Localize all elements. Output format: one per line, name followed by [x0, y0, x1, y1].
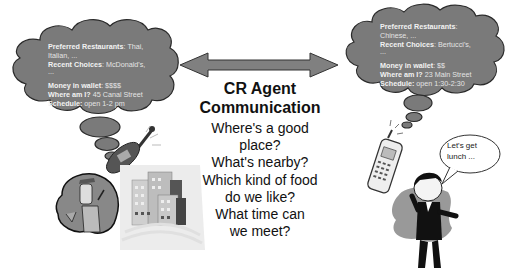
question-line: Which kind of food: [182, 172, 338, 189]
right-preferred-label: Preferred Restaurants: [380, 22, 456, 31]
speech-line-1: Let's get: [447, 140, 507, 151]
right-schedule-value: open 1:30-2:30: [414, 79, 464, 88]
left-schedule-label: Schedule:: [48, 99, 82, 108]
question-line: Where's a good: [182, 120, 338, 137]
right-schedule-label: Schedule:: [380, 79, 414, 88]
bidirectional-arrow: [180, 53, 338, 77]
speech-bubble-text: Let's get lunch ...: [447, 140, 507, 162]
left-recent-label: Recent Choices: [48, 60, 102, 69]
left-recent-value: : McDonald's,: [102, 60, 145, 69]
question-line: What time can: [182, 206, 338, 223]
right-preferred-value-cont: Chinese, ...: [380, 31, 472, 40]
diagram-title: CR Agent Communication: [190, 79, 330, 117]
right-money-label: Money in wallet: [380, 61, 433, 70]
right-thought-text: Preferred Restaurants: Chinese, ... Rece…: [380, 22, 472, 88]
question-list: Where's a good place? What's nearby? Whi…: [182, 120, 338, 240]
right-recent-label: Recent Choices: [380, 40, 434, 49]
right-money-value: : $$: [433, 61, 445, 70]
speech-line-2: lunch ...: [447, 151, 507, 162]
title-line-1: CR Agent: [190, 79, 330, 98]
right-where-label: Where am I?: [380, 70, 423, 79]
left-where-label: Where am I?: [48, 90, 91, 99]
left-where-value: 45 Canal Street: [91, 90, 143, 99]
right-where-value: 23 Main Street: [423, 70, 472, 79]
question-line: place?: [182, 137, 338, 154]
left-preferred-label: Preferred Restaurants: [48, 42, 124, 51]
left-preferred-value: : Thai,: [124, 42, 144, 51]
left-schedule-value: open 1-2 pm: [82, 99, 124, 108]
man-on-phone-icon: [392, 173, 456, 268]
left-preferred-value-cont: Italian, ...: [48, 51, 145, 60]
businessman-icon: [56, 174, 118, 233]
left-money-value: : $$$$: [101, 81, 121, 90]
question-line: we meet?: [182, 223, 338, 240]
right-cellphone-icon: [367, 120, 404, 194]
left-thought-text: Preferred Restaurants: Thai, Italian, ..…: [48, 42, 145, 108]
question-line: do we like?: [182, 189, 338, 206]
right-recent-value: : Bertucci's,: [434, 40, 471, 49]
question-line: What's nearby?: [182, 154, 338, 171]
left-money-label: Money in wallet: [48, 81, 101, 90]
right-preferred-value: :: [456, 22, 458, 31]
title-line-2: Communication: [190, 98, 330, 117]
